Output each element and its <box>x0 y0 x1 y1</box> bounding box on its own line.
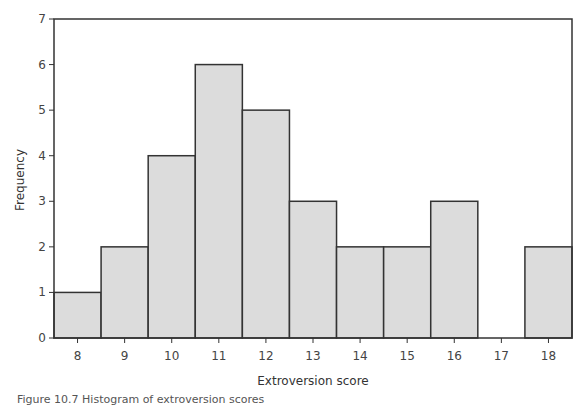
histogram-bar <box>54 292 101 338</box>
y-tick-label: 5 <box>38 103 46 117</box>
histogram-bar <box>384 247 431 338</box>
histogram-bar <box>195 65 242 338</box>
histogram-bar <box>148 156 195 338</box>
y-tick-label: 4 <box>38 149 46 163</box>
x-tick-label: 13 <box>305 349 320 363</box>
histogram-bar <box>101 247 148 338</box>
x-tick-label: 16 <box>447 349 462 363</box>
x-tick-label: 12 <box>258 349 273 363</box>
x-tick-label: 18 <box>541 349 556 363</box>
histogram-bar <box>431 201 478 338</box>
figure-caption: Figure 10.7 Histogram of extroversion sc… <box>17 393 264 406</box>
x-tick-label: 14 <box>352 349 367 363</box>
y-tick-label: 3 <box>38 194 46 208</box>
x-tick-label: 11 <box>211 349 226 363</box>
y-axis-title: Frequency <box>13 149 27 211</box>
bars-group <box>54 65 572 338</box>
x-tick-label: 17 <box>494 349 509 363</box>
x-tick-label: 10 <box>164 349 179 363</box>
y-tick-label: 0 <box>38 331 46 345</box>
y-tick-label: 1 <box>38 285 46 299</box>
histogram-bar <box>337 247 384 338</box>
x-axis: 89101112131415161718 <box>74 338 556 363</box>
histogram-bar <box>525 247 572 338</box>
y-tick-label: 7 <box>38 12 46 26</box>
x-axis-title: Extroversion score <box>257 374 368 388</box>
x-tick-label: 9 <box>121 349 129 363</box>
histogram-bar <box>242 110 289 338</box>
histogram-bar <box>289 201 336 338</box>
y-tick-label: 6 <box>38 58 46 72</box>
y-tick-label: 2 <box>38 240 46 254</box>
x-tick-label: 8 <box>74 349 82 363</box>
y-axis: 01234567 <box>38 12 54 345</box>
x-tick-label: 15 <box>400 349 415 363</box>
